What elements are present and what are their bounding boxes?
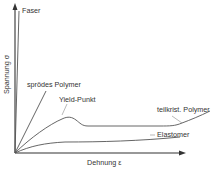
label-elastomer: Elastomer — [157, 130, 190, 139]
y-axis-arrow-icon — [13, 3, 18, 10]
x-axis-label: Dehnung ε — [87, 158, 122, 167]
labels: Faser sprödes Polymer Yield-Punkt teilkr… — [2, 6, 210, 167]
label-sproedes-polymer: sprödes Polymer — [27, 80, 82, 89]
curve-faser — [15, 11, 19, 153]
curve-sproedes-polymer — [15, 91, 46, 153]
label-teilkrist-polymer: teilkrist. Polymer — [157, 105, 210, 114]
y-axis-label: Spannung σ — [2, 54, 11, 94]
label-faser: Faser — [22, 6, 41, 15]
leader-teilkrist — [172, 116, 182, 123]
x-axis-arrow-icon — [179, 151, 186, 156]
curve-elastomer — [15, 137, 180, 153]
stress-strain-diagram: Faser sprödes Polymer Yield-Punkt teilkr… — [0, 0, 220, 172]
label-yield-punkt: Yield-Punkt — [59, 95, 96, 104]
leader-yield — [62, 104, 67, 115]
